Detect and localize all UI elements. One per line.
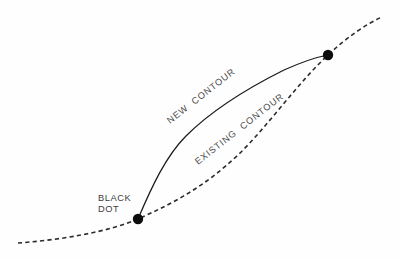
black-dot-right-node — [323, 50, 333, 60]
contour-diagram-svg: NEW CONTOUR EXISTING CONTOUR — [0, 0, 400, 260]
existing-contour-label: EXISTING CONTOUR — [193, 91, 286, 166]
rotated-label-existing-contour: EXISTING CONTOUR — [193, 91, 286, 166]
rotated-label-new-contour: NEW CONTOUR — [165, 66, 237, 125]
black-dot-callout-label: BLACK DOT — [98, 193, 131, 214]
black-dot-left-node — [133, 214, 143, 224]
diagram-canvas: NEW CONTOUR EXISTING CONTOUR BLACK DOT — [0, 0, 400, 260]
new-contour-label: NEW CONTOUR — [165, 66, 237, 125]
